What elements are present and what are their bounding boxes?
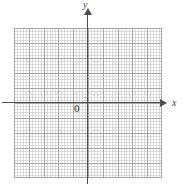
coordinate-plane-figure: x y 0 [0, 0, 186, 192]
grid-plate [14, 28, 162, 178]
y-axis-line [87, 14, 88, 184]
x-axis-label: x [172, 98, 176, 108]
origin-label: 0 [74, 103, 80, 114]
y-axis-label: y [83, 0, 87, 10]
grid-border [14, 28, 162, 178]
x-axis-arrowhead-icon [160, 99, 167, 107]
x-axis-line [2, 102, 162, 103]
